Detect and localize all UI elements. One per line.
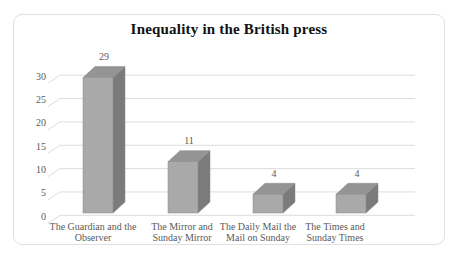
document-page: Inequality in the British press 05101520…: [0, 0, 455, 258]
category-label: The Times andSunday Times: [305, 221, 364, 243]
data-label: 4: [272, 168, 277, 179]
y-tick-label: 20: [36, 117, 46, 128]
y-tick-label: 5: [41, 187, 46, 198]
bar-side-face: [113, 67, 125, 213]
bar-front-face: [336, 194, 366, 213]
bar-front-face: [168, 162, 198, 213]
bar-chart-canvas: 051015202530291144The Guardian and theOb…: [0, 0, 455, 258]
y-tick-label: 25: [36, 94, 46, 105]
y-tick-connector: [48, 75, 60, 83]
y-tick-label: 0: [41, 211, 46, 222]
data-label: 29: [99, 51, 109, 62]
y-tick-connector: [48, 99, 60, 107]
y-tick-connector: [48, 169, 60, 177]
y-tick-label: 10: [36, 164, 46, 175]
data-label: 11: [184, 135, 194, 146]
bar-front-face: [83, 78, 113, 213]
y-tick-connector: [48, 145, 60, 153]
y-tick-connector: [48, 192, 60, 200]
bar-front-face: [253, 194, 283, 213]
category-label: The Guardian and theObserver: [50, 221, 137, 243]
y-tick-connector: [48, 122, 60, 130]
category-label: The Daily Mail theMail on Sunday: [220, 221, 297, 243]
y-tick-label: 15: [36, 141, 46, 152]
y-tick-label: 30: [36, 71, 46, 82]
data-label: 4: [355, 168, 360, 179]
category-label: The Mirror andSunday Mirror: [151, 221, 213, 243]
